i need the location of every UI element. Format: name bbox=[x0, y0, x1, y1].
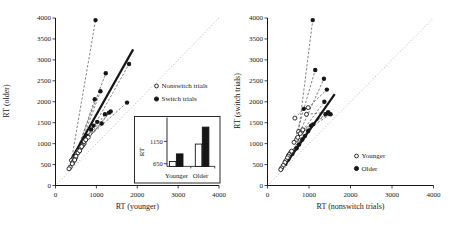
filled-data-point bbox=[297, 142, 301, 146]
x-tick-label: 3000 bbox=[171, 191, 186, 199]
inset-y-axis-label: RT bbox=[138, 147, 146, 156]
legend-filled-marker bbox=[154, 97, 158, 101]
x-axis-label: RT (nonswitch trials) bbox=[317, 202, 385, 211]
open-data-point bbox=[306, 106, 310, 110]
y-tick-label: 0 bbox=[260, 182, 264, 190]
filled-data-point bbox=[107, 110, 111, 114]
x-tick-label: 3000 bbox=[385, 191, 400, 199]
filled-data-point bbox=[89, 127, 93, 131]
filled-data-point bbox=[103, 112, 107, 116]
y-tick-label: 3500 bbox=[37, 35, 52, 43]
identity-line bbox=[269, 18, 433, 184]
pair-connector-line bbox=[84, 64, 129, 144]
x-tick-label: 2000 bbox=[130, 191, 145, 199]
filled-data-point bbox=[302, 107, 306, 111]
open-data-point bbox=[70, 162, 74, 166]
y-tick-label: 4000 bbox=[37, 14, 52, 22]
filled-data-point bbox=[322, 77, 326, 81]
open-data-point bbox=[305, 112, 309, 116]
y-tick-label: 3500 bbox=[249, 35, 264, 43]
filled-data-point bbox=[306, 129, 310, 133]
filled-data-point bbox=[95, 120, 99, 124]
inset-category-label: Older bbox=[193, 172, 209, 179]
x-tick-label: 1000 bbox=[302, 191, 317, 199]
inset-bar-older-switch bbox=[202, 127, 209, 166]
inset-bar-older-nonswitch bbox=[195, 144, 202, 166]
open-data-point bbox=[293, 116, 297, 120]
open-data-point bbox=[298, 132, 302, 136]
y-axis-label: RT (older) bbox=[2, 84, 11, 118]
filled-data-point bbox=[294, 146, 298, 150]
y-tick-label: 1000 bbox=[249, 140, 264, 148]
open-data-point bbox=[73, 158, 77, 162]
open-data-point bbox=[84, 138, 88, 142]
filled-data-point bbox=[125, 100, 129, 104]
filled-data-point bbox=[311, 18, 315, 22]
filled-data-point bbox=[127, 62, 131, 66]
x-tick-label: 2000 bbox=[344, 191, 359, 199]
filled-data-point bbox=[98, 89, 102, 93]
inset-y-tick-label: 650 bbox=[153, 160, 163, 167]
y-tick-label: 2000 bbox=[37, 98, 52, 106]
filled-data-point bbox=[322, 100, 326, 104]
legend-open-marker bbox=[155, 84, 159, 88]
inset-bar-younger-switch bbox=[176, 154, 183, 167]
y-tick-label: 2000 bbox=[249, 98, 264, 106]
task-switching-rt-panels: 0500100015002000250030003500400001000200… bbox=[0, 0, 450, 227]
filled-data-point bbox=[313, 68, 317, 72]
open-data-point bbox=[80, 145, 84, 149]
open-data-point bbox=[296, 135, 300, 139]
x-tick-label: 4000 bbox=[427, 191, 442, 199]
open-data-point bbox=[301, 128, 305, 132]
inset-y-tick-label: 1150 bbox=[150, 138, 163, 145]
filled-data-point bbox=[325, 87, 329, 91]
y-tick-label: 3000 bbox=[37, 56, 52, 64]
x-tick-label: 1000 bbox=[89, 191, 104, 199]
legend-open-marker bbox=[355, 154, 359, 158]
filled-data-point bbox=[93, 18, 97, 22]
open-data-point bbox=[279, 168, 283, 172]
filled-data-point bbox=[104, 71, 108, 75]
filled-data-point bbox=[328, 112, 332, 116]
legend-label: Switch trials bbox=[162, 95, 197, 103]
inset-bar-younger-nonswitch bbox=[169, 161, 176, 166]
x-tick-label: 0 bbox=[266, 191, 270, 199]
filled-data-point bbox=[311, 122, 315, 126]
y-tick-label: 500 bbox=[253, 161, 264, 169]
y-tick-label: 4000 bbox=[249, 14, 264, 22]
y-tick-label: 2500 bbox=[249, 77, 264, 85]
legend-label: Older bbox=[362, 165, 379, 173]
brinley-plot-figure: 0500100015002000250030003500400001000200… bbox=[0, 0, 450, 227]
legend-label: Nonswitch trials bbox=[162, 82, 208, 90]
open-data-point bbox=[78, 149, 82, 153]
y-tick-label: 0 bbox=[48, 182, 52, 190]
open-data-point bbox=[67, 167, 71, 171]
inset-category-label: Younger bbox=[165, 172, 189, 179]
filled-data-point bbox=[99, 121, 103, 125]
x-axis-label: RT (younger) bbox=[116, 202, 159, 211]
legend-filled-marker bbox=[354, 166, 358, 170]
x-tick-label: 4000 bbox=[212, 191, 227, 199]
y-tick-label: 3000 bbox=[249, 56, 264, 64]
y-tick-label: 1500 bbox=[37, 119, 52, 127]
filled-data-point bbox=[93, 97, 97, 101]
y-tick-label: 1500 bbox=[249, 119, 264, 127]
y-tick-label: 2500 bbox=[37, 77, 52, 85]
y-axis-label: RT (switch trials) bbox=[233, 73, 242, 129]
y-tick-label: 1000 bbox=[37, 140, 52, 148]
legend-label: Younger bbox=[362, 152, 386, 160]
filled-data-point bbox=[300, 137, 304, 141]
filled-data-point bbox=[91, 123, 95, 127]
y-tick-label: 500 bbox=[41, 161, 52, 169]
x-tick-label: 0 bbox=[54, 191, 58, 199]
regression-fit-line bbox=[72, 49, 133, 158]
